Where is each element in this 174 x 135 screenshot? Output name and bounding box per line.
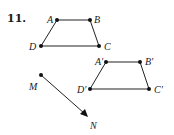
point-c-prime <box>147 87 151 91</box>
translation-diagram: 11. A B C D A′ B′ C′ D′ M N <box>0 0 174 135</box>
label-a: A <box>46 14 54 25</box>
point-d-prime <box>88 87 92 91</box>
point-b <box>88 18 92 22</box>
label-m: M <box>28 81 38 92</box>
label-c-prime: C′ <box>154 84 164 95</box>
label-d-prime: D′ <box>76 84 87 95</box>
quadrilateral-abcd: A B C D <box>28 14 111 52</box>
point-c <box>97 44 101 48</box>
label-c: C <box>104 41 111 52</box>
point-m <box>39 73 43 77</box>
label-b: B <box>94 14 100 25</box>
point-a-prime <box>104 60 108 64</box>
label-b-prime: B′ <box>145 56 154 67</box>
vector-mn: M N <box>28 73 98 131</box>
label-n: N <box>89 120 98 131</box>
label-a-prime: A′ <box>94 56 104 67</box>
point-d <box>39 44 43 48</box>
label-d: D <box>28 41 37 52</box>
quadrilateral-image: A′ B′ C′ D′ <box>76 56 164 95</box>
problem-number: 11. <box>7 12 26 25</box>
point-a <box>55 18 59 22</box>
point-b-prime <box>138 60 142 64</box>
